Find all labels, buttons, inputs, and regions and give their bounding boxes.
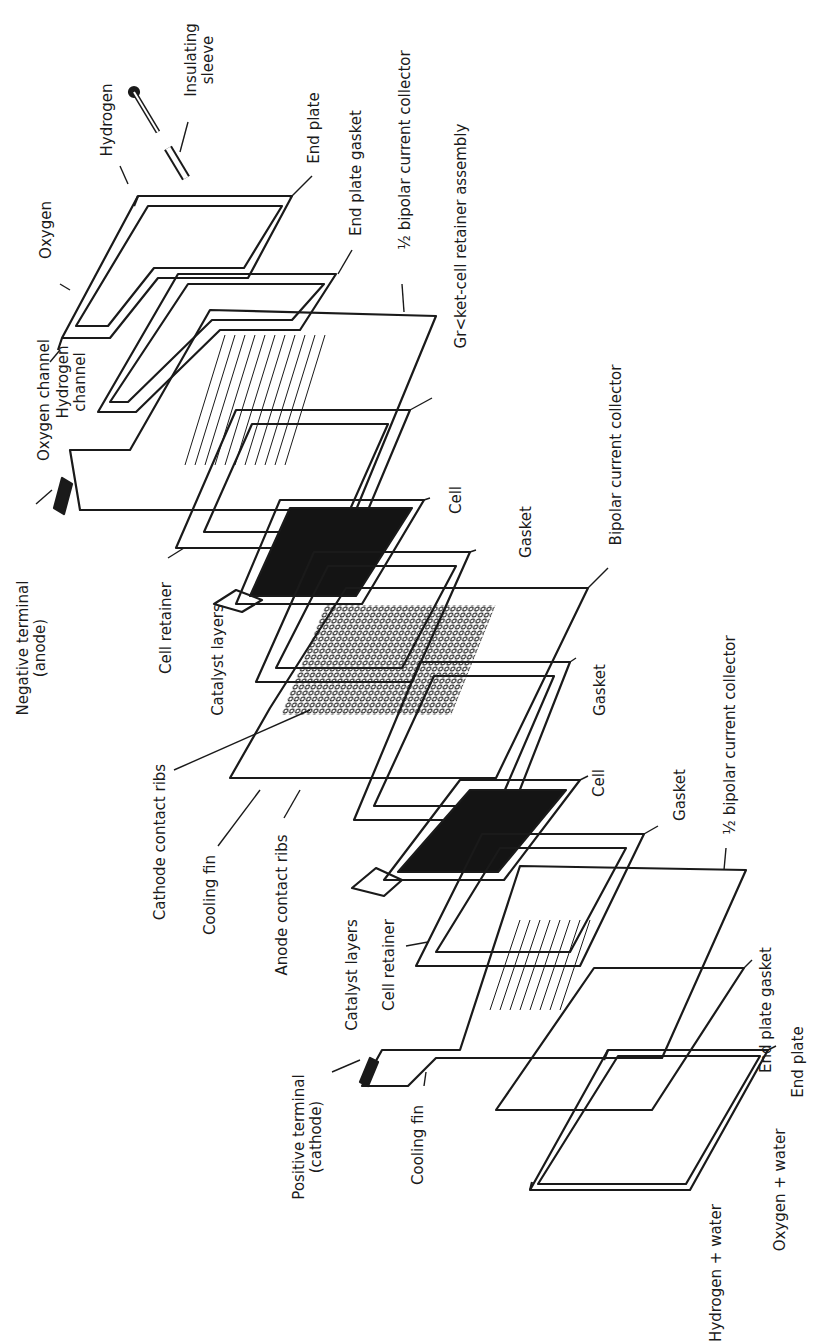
label-gasket-3: Gasket — [672, 769, 689, 821]
label-hydrogen-water: Hydrogen + water — [708, 1204, 725, 1342]
label-cooling-fin-top: Cooling fin — [202, 855, 219, 935]
label-half-bipolar-bottom: ½ bipolar current collector — [722, 635, 739, 834]
label-gasket-2: Gasket — [592, 664, 609, 716]
label-insulating-sleeve: Insulatingsleeve — [183, 23, 217, 97]
label-cell-retainer-top: Cell retainer — [158, 582, 175, 674]
tie-bolt-icon — [129, 87, 158, 132]
label-oxygen-channel: Oxygen channel — [36, 339, 53, 461]
label-end-plate-bottom: End plate — [790, 1026, 807, 1097]
label-anode-contact-ribs: Anode contact ribs — [274, 834, 291, 975]
label-catalyst-layers-top: Catalyst layers — [210, 604, 227, 716]
label-gasket-1: Gasket — [518, 506, 535, 558]
positive-terminal-icon — [360, 1058, 378, 1086]
label-end-plate-gasket-bottom: End plate gasket — [758, 947, 775, 1073]
label-cell-retainer-bottom: Cell retainer — [381, 919, 398, 1011]
label-catalyst-layers-bottom: Catalyst layers — [344, 919, 361, 1031]
cell-bottom — [352, 780, 580, 896]
end-plate-bottom — [530, 1050, 768, 1190]
label-bipolar-current-collector: Bipolar current collector — [608, 365, 625, 546]
negative-terminal-icon — [54, 478, 72, 514]
label-end-plate-gasket-top: End plate gasket — [348, 110, 365, 236]
label-oxygen: Oxygen — [38, 201, 55, 259]
label-cooling-fin-bottom: Cooling fin — [410, 1105, 427, 1185]
label-hydrogen: Hydrogen — [99, 84, 116, 157]
label-positive-terminal: Positive terminal(cathode) — [291, 1074, 325, 1199]
label-gasket-cell-retainer-assembly: Gr<ket-cell retainer assembly — [453, 124, 470, 349]
cell-top — [214, 500, 424, 612]
label-cell-top: Cell — [448, 486, 465, 514]
label-negative-terminal: Negative terminal(anode) — [15, 581, 49, 716]
insulating-sleeve-icon — [168, 122, 188, 178]
end-plate-gasket-bottom — [496, 968, 744, 1110]
label-oxygen-water: Oxygen + water — [772, 1129, 789, 1252]
label-cell-bottom: Cell — [591, 769, 608, 797]
label-end-plate-top: End plate — [306, 92, 323, 163]
label-half-bipolar-top: ½ bipolar current collector — [397, 50, 414, 249]
label-hydrogen-channel: Hydrogenchannel — [55, 346, 89, 419]
label-cathode-contact-ribs: Cathode contact ribs — [152, 764, 169, 920]
